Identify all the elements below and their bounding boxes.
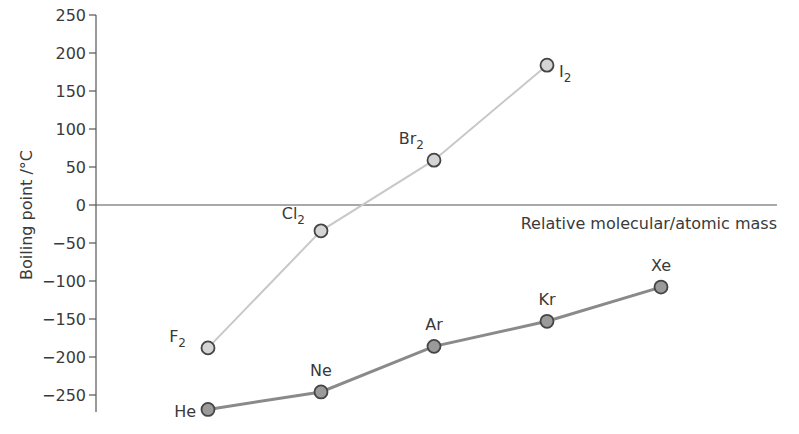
- point-label-ne: Ne: [310, 361, 332, 380]
- point-label-ar: Ar: [425, 315, 443, 334]
- data-point-br: [428, 154, 441, 167]
- point-label-f: F2: [169, 327, 186, 350]
- series-layer: F2Cl2Br2I2HeNeArKrXe: [169, 59, 671, 422]
- point-label-i: I2: [559, 62, 571, 85]
- x-axis-label: Relative molecular/atomic mass: [521, 214, 777, 233]
- data-point-kr: [541, 315, 554, 328]
- y-tick-label: −200: [42, 348, 86, 367]
- y-axis: 250200150100500−50−100−150−200−250: [42, 6, 96, 412]
- data-point-ne: [315, 385, 328, 398]
- y-tick-label: 50: [66, 158, 86, 177]
- y-tick-label: 200: [55, 44, 86, 63]
- data-point-i: [541, 59, 554, 72]
- series-halogens: F2Cl2Br2I2: [169, 59, 571, 355]
- data-point-xe: [655, 281, 668, 294]
- series-noble-gases: HeNeArKrXe: [174, 256, 671, 421]
- y-tick-label: 0: [76, 196, 86, 215]
- y-tick-label: 250: [55, 6, 86, 25]
- y-tick-label: −150: [42, 310, 86, 329]
- data-point-ar: [428, 340, 441, 353]
- data-point-f: [202, 341, 215, 354]
- boiling-point-chart: 250200150100500−50−100−150−200−250 F2Cl2…: [0, 0, 799, 434]
- y-tick-label: 100: [55, 120, 86, 139]
- y-tick-label: −100: [42, 272, 86, 291]
- data-point-he: [202, 403, 215, 416]
- point-label-cl: Cl2: [282, 204, 305, 227]
- y-tick-label: −50: [52, 234, 86, 253]
- data-point-cl: [315, 224, 328, 237]
- y-tick-label: 150: [55, 82, 86, 101]
- point-label-br: Br2: [399, 129, 424, 152]
- y-axis-label: Boiling point /°C: [17, 150, 36, 280]
- point-label-he: He: [174, 402, 196, 421]
- point-label-kr: Kr: [538, 290, 555, 309]
- point-label-xe: Xe: [651, 256, 671, 275]
- y-tick-label: −250: [42, 386, 86, 405]
